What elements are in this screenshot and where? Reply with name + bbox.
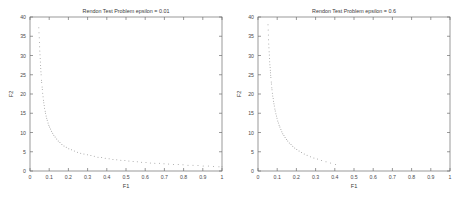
data-point [63, 145, 64, 146]
data-point [275, 113, 276, 114]
x-tick-label: 0.3 [312, 174, 319, 180]
data-point [116, 159, 117, 160]
data-point [301, 152, 302, 153]
data-point [48, 125, 49, 126]
data-point [145, 162, 146, 163]
data-point [105, 158, 106, 159]
data-point [292, 146, 293, 147]
data-point [112, 159, 113, 160]
y-tick-label: 10 [20, 130, 26, 136]
data-point [317, 159, 318, 160]
data-point [335, 164, 336, 165]
data-point [188, 165, 189, 166]
data-point [48, 122, 49, 123]
data-point [44, 108, 45, 109]
x-tick-label: 0.6 [370, 174, 377, 180]
data-point [267, 24, 268, 25]
scatter-chart-epsilon-06: 00.10.20.30.40.50.60.70.80.9105101520253… [230, 0, 461, 198]
y-tick-label: 40 [248, 14, 254, 20]
data-point [97, 157, 98, 158]
data-point [294, 147, 295, 148]
data-point [120, 160, 121, 161]
data-point [41, 80, 42, 81]
data-point [277, 118, 278, 119]
data-point [269, 58, 270, 59]
plot-frame [258, 17, 450, 171]
data-point [154, 163, 155, 164]
data-point [39, 46, 40, 47]
data-point [71, 149, 72, 150]
chart-title: Rendon Test Problem epsilon = 0.6 [312, 8, 396, 14]
data-point [50, 129, 51, 130]
x-tick-label: 0.6 [142, 174, 149, 180]
x-tick-label: 0.8 [408, 174, 415, 180]
data-point [287, 140, 288, 141]
data-point [208, 166, 209, 167]
x-tick-label: 0 [257, 174, 260, 180]
data-point [137, 161, 138, 162]
data-series [38, 27, 222, 167]
data-point [101, 157, 102, 158]
data-point [282, 133, 283, 134]
data-point [330, 162, 331, 163]
figure-container: 00.10.20.30.40.50.60.70.80.9105101520253… [0, 0, 461, 198]
data-point [307, 155, 308, 156]
plot-frame [30, 17, 222, 171]
x-axis-title: F1 [351, 183, 358, 189]
data-point [43, 96, 44, 97]
data-point [193, 165, 194, 166]
scatter-chart-epsilon-001: 00.10.20.30.40.50.60.70.80.9105101520253… [0, 0, 230, 198]
y-tick-label: 5 [23, 149, 26, 155]
data-point [168, 164, 169, 165]
data-point [269, 55, 270, 56]
data-point [77, 152, 78, 153]
data-point [268, 43, 269, 44]
data-point [269, 64, 270, 65]
x-tick-label: 0.5 [350, 174, 357, 180]
y-axis-title: F2 [8, 91, 14, 98]
x-tick-label: 0.2 [65, 174, 72, 180]
x-tick-label: 1 [221, 174, 224, 180]
data-point [268, 30, 269, 31]
x-tick-label: 0.4 [331, 174, 338, 180]
data-point [58, 140, 59, 141]
x-tick-label: 0.4 [103, 174, 110, 180]
data-point [40, 62, 41, 63]
data-series [267, 24, 336, 165]
data-point [279, 127, 280, 128]
data-point [285, 137, 286, 138]
data-point [283, 135, 284, 136]
y-axis-title: F2 [236, 91, 242, 98]
data-point [40, 65, 41, 66]
data-point [141, 162, 142, 163]
data-point [270, 70, 271, 71]
y-tick-label: 35 [20, 33, 26, 39]
data-point [61, 144, 62, 145]
data-point [80, 153, 81, 154]
data-point [55, 137, 56, 138]
data-point [42, 93, 43, 94]
data-point [269, 61, 270, 62]
data-point [277, 120, 278, 121]
chart-panel-right: 00.10.20.30.40.50.60.70.80.9105101520253… [230, 0, 460, 198]
y-tick-label: 20 [20, 91, 26, 97]
y-tick-label: 0 [251, 168, 254, 174]
data-point [270, 75, 271, 76]
data-point [53, 135, 54, 136]
data-point [40, 68, 41, 69]
data-point [273, 103, 274, 104]
data-point [109, 158, 110, 159]
x-tick-label: 0.7 [389, 174, 396, 180]
data-point [325, 161, 326, 162]
data-point [222, 166, 223, 167]
data-point [271, 82, 272, 83]
data-point [43, 100, 44, 101]
data-point [56, 139, 57, 140]
data-point [164, 163, 165, 164]
data-point [39, 50, 40, 51]
x-tick-label: 0 [29, 174, 32, 180]
data-point [198, 165, 199, 166]
data-point [299, 150, 300, 151]
data-point [38, 27, 39, 28]
data-point [272, 95, 273, 96]
